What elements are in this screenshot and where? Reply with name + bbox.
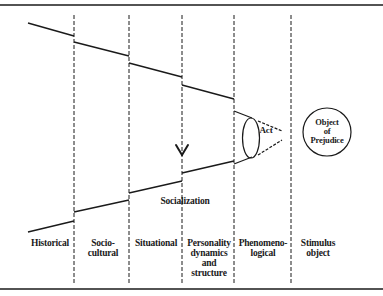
socialization-label: Socialization bbox=[150, 196, 220, 206]
column-label-situational: Situational bbox=[130, 238, 182, 248]
column-label-personality: Personality dynamics and structure bbox=[183, 238, 235, 278]
object-of-prejudice-label: Object of Prejudice bbox=[305, 118, 349, 145]
act-label: Act bbox=[255, 125, 277, 135]
act-cone bbox=[234, 111, 282, 164]
column-label-phenomenological: Phenomeno- logical bbox=[236, 238, 290, 258]
column-label-historical: Historical bbox=[24, 238, 76, 248]
cone-mouth-ellipse bbox=[243, 118, 260, 158]
column-label-sociocultural: Socio- cultural bbox=[78, 238, 128, 258]
column-label-stimulus-object: Stimulus object bbox=[292, 238, 344, 258]
funnel-top-edge bbox=[28, 23, 234, 99]
